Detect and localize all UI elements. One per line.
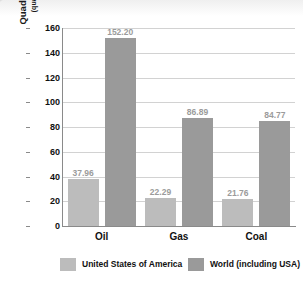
bar-gas-world <box>182 118 213 226</box>
y-axis-tick-label: 60 <box>34 147 60 157</box>
bar-value-label: 37.96 <box>62 168 105 178</box>
gridline <box>63 102 295 103</box>
y-axis-tick-label: 140 <box>34 48 60 58</box>
bar-coal-world <box>259 121 290 226</box>
y-axis-tick-label: 0 <box>34 221 60 231</box>
bar-oil-world <box>105 38 136 226</box>
bar-value-label: 21.76 <box>216 188 259 198</box>
y-axis-tick-label: 100 <box>34 97 60 107</box>
legend-label-world: World (including USA) <box>210 259 300 269</box>
y-axis-tick-mark <box>26 78 30 79</box>
x-axis-label-oil: Oil <box>63 231 140 242</box>
y-axis-tick-label: 40 <box>34 172 60 182</box>
legend-item-usa: United States of America <box>60 258 182 271</box>
legend-swatch-usa-icon <box>60 258 76 271</box>
legend-item-world: World (including USA) <box>188 258 300 271</box>
bar-chart: Quadrillion British thermal units (quadr… <box>0 0 303 281</box>
bar-coal-usa <box>222 199 253 226</box>
y-axis-title-sub: (quadrillion = 1 000 000 000 000 000) <box>28 0 39 12</box>
y-axis-tick-label: 160 <box>34 23 60 33</box>
legend-label-usa: United States of America <box>82 259 182 269</box>
y-axis-tick-label: 80 <box>34 122 60 132</box>
y-axis-tick-mark <box>26 127 30 128</box>
legend-swatch-world-icon <box>188 258 204 271</box>
chart-legend: United States of America World (includin… <box>60 254 300 274</box>
x-axis-line <box>62 226 296 227</box>
x-axis-label-coal: Coal <box>218 231 295 242</box>
y-axis-tick-mark <box>26 226 30 227</box>
bar-oil-usa <box>68 179 99 226</box>
bar-gas-usa <box>145 198 176 226</box>
y-axis-tick-label: 120 <box>34 73 60 83</box>
y-axis-tick-mark <box>26 201 30 202</box>
bar-value-label: 86.89 <box>176 107 219 117</box>
y-axis-tick-mark <box>26 102 30 103</box>
bar-value-label: 22.29 <box>139 187 182 197</box>
gridline <box>63 53 295 54</box>
gridline <box>63 78 295 79</box>
y-axis-tick-mark <box>26 28 30 29</box>
bar-value-label: 84.77 <box>253 110 296 120</box>
x-axis-label-gas: Gas <box>140 231 217 242</box>
y-axis-tick-mark <box>26 177 30 178</box>
y-axis-tick-mark <box>26 152 30 153</box>
y-axis-line <box>62 28 63 227</box>
bar-value-label: 152.20 <box>99 27 142 37</box>
y-axis-title-main: Quadrillion British thermal units <box>17 0 28 25</box>
y-axis-ticks: 020406080100120140160 <box>30 28 60 227</box>
plot-area: 37.96152.2022.2986.8921.7684.77 OilGasCo… <box>63 28 295 226</box>
y-axis-tick-label: 20 <box>34 196 60 206</box>
y-axis-tick-mark <box>26 53 30 54</box>
